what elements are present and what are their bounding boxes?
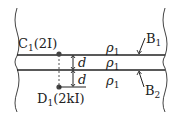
left-wavy-edge [15,8,19,112]
right-wavy-edge [163,8,167,112]
point-c1-dot [56,51,61,56]
label-b2: B2 [145,83,160,100]
distance-label-1: d [78,55,86,70]
b2-pointer [139,72,144,87]
label-d1: D1(2kI) [37,91,85,108]
label-c1: C1(2I) [18,36,57,53]
layered-medium-diagram: d d C1(2I) D1(2kI) ρ1 ρ1 ρ1 B1 B2 [0,0,178,118]
b1-pointer [139,38,145,53]
label-b1: B1 [146,31,161,48]
distance-label-2: d [78,72,86,87]
rho-region-middle: ρ1 [105,55,119,72]
rho-region-bottom: ρ1 [105,73,119,90]
